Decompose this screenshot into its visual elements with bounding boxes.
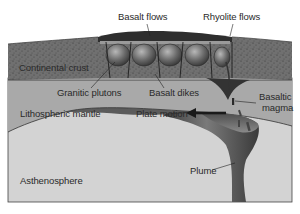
label-basalt-flows: Basalt flows bbox=[118, 12, 168, 22]
continental-crust-left bbox=[8, 37, 98, 80]
label-plume: Plume bbox=[190, 166, 216, 176]
label-basalt-dikes: Basalt dikes bbox=[149, 88, 199, 98]
basalt-flows-cap bbox=[98, 31, 232, 42]
label-granitic-plutons: Granitic plutons bbox=[57, 88, 121, 98]
continental-crust-right bbox=[232, 37, 292, 80]
label-continental-crust: Continental crust bbox=[19, 63, 89, 73]
hotspot-diagram: Basalt flows Rhyolite flows Continental … bbox=[0, 0, 300, 214]
label-lithospheric-mantle: Lithospheric mantle bbox=[20, 109, 100, 119]
label-basaltic-magma-line1: Basaltic bbox=[259, 92, 291, 102]
label-plate-motion: Plate motion bbox=[136, 109, 188, 119]
label-asthenosphere: Asthenosphere bbox=[20, 176, 83, 186]
magma-blob bbox=[232, 98, 234, 105]
label-basaltic-magma-line2: magma bbox=[262, 103, 293, 113]
label-rhyolite-flows: Rhyolite flows bbox=[203, 12, 260, 22]
